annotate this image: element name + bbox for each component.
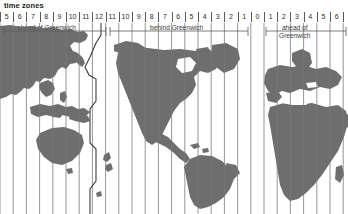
label-ahead-of-greenwich-left: ahead of Greenwich [17, 24, 76, 32]
label-ahead-line1: ahead of [279, 24, 311, 32]
zone-separator-3 [40, 12, 41, 22]
zone-separator-5 [66, 12, 67, 22]
zone-separator-19 [251, 12, 252, 22]
zone-number-24: 5 [317, 11, 330, 22]
zone-number-13: 6 [172, 11, 185, 22]
zone-number-14: 5 [185, 11, 198, 22]
zone-separator-17 [224, 12, 225, 22]
world-map-svg [0, 23, 348, 214]
zone-number-18: 1 [238, 11, 251, 22]
zone-number-5: 10 [66, 11, 79, 22]
zone-separator-18 [238, 12, 239, 22]
zone-separator-24 [317, 12, 318, 22]
zone-separator-15 [198, 12, 199, 22]
zone-number-2: 7 [26, 11, 39, 22]
zone-separator-11 [145, 12, 146, 22]
label-ahead-of-greenwich-right: ahead of Greenwich [279, 24, 311, 39]
zone-separator-end [343, 12, 344, 22]
zone-separator-20 [264, 12, 265, 22]
zone-separator-10 [132, 12, 133, 22]
zone-number-12: 7 [158, 11, 171, 22]
zone-number-16: 3 [211, 11, 224, 22]
zone-separator-16 [211, 12, 212, 22]
black-sea-notch [306, 82, 318, 88]
zone-number-10: 9 [132, 11, 145, 22]
zone-separator-23 [304, 12, 305, 22]
zone-separator-13 [172, 12, 173, 22]
zone-number-23: 4 [304, 11, 317, 22]
zone-number-21: 2 [277, 11, 290, 22]
label-behind-greenwich: behind Greenwich [150, 24, 203, 32]
zone-separator-0 [0, 12, 1, 22]
zone-separator-22 [290, 12, 291, 22]
zone-number-4: 9 [53, 11, 66, 22]
zone-separator-8 [106, 12, 107, 22]
zone-separator-7 [92, 12, 93, 22]
world-map [0, 23, 348, 214]
zone-number-19: 0 [251, 11, 264, 22]
zone-separator-6 [79, 12, 80, 22]
time-zone-scale: 5678910111211109876543210123456 [0, 11, 348, 23]
zone-number-8: 11 [106, 11, 119, 22]
zone-number-9: 10 [119, 11, 132, 22]
zone-number-22: 3 [290, 11, 303, 22]
zone-separator-14 [185, 12, 186, 22]
zone-separator-4 [53, 12, 54, 22]
zone-number-6: 11 [79, 11, 92, 22]
zone-separator-2 [26, 12, 27, 22]
zone-number-25: 6 [330, 11, 343, 22]
zone-separator-9 [119, 12, 120, 22]
zone-number-3: 8 [40, 11, 53, 22]
label-ahead-line2: Greenwich [279, 32, 311, 40]
zone-separator-25 [330, 12, 331, 22]
zone-number-1: 6 [13, 11, 26, 22]
zone-separator-12 [158, 12, 159, 22]
zone-number-17: 2 [224, 11, 237, 22]
zone-number-20: 1 [264, 11, 277, 22]
zone-number-0: 5 [0, 11, 13, 22]
zone-separator-1 [13, 12, 14, 22]
figure-title: time zones [4, 1, 44, 10]
time-zones-figure: time zones 56789101112111098765432101234… [0, 0, 348, 214]
zone-number-7: 12 [92, 11, 105, 22]
zone-separator-21 [277, 12, 278, 22]
zone-number-15: 4 [198, 11, 211, 22]
zone-number-11: 8 [145, 11, 158, 22]
